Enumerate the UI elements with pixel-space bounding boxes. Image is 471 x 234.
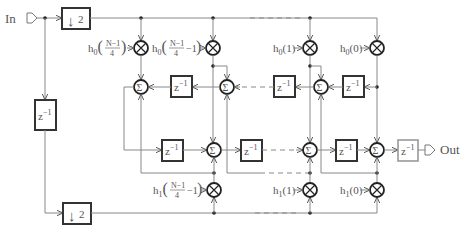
svg-text:2: 2 <box>79 208 85 220</box>
svg-text:4: 4 <box>174 49 178 58</box>
svg-text:4: 4 <box>175 191 179 200</box>
bottom-downsampler-block: ↓ 2 <box>63 203 91 224</box>
bottom-sum-2: Σ <box>303 143 317 157</box>
top-downsampler-block: ↓ 2 <box>62 8 90 29</box>
top-multiplier-4 <box>370 41 384 55</box>
bottom-multiplier-1 <box>207 183 221 197</box>
svg-text:Σ: Σ <box>373 145 379 156</box>
top-multiplier-1 <box>134 41 148 55</box>
down-arrow-icon: ↓ <box>67 13 75 29</box>
input-port-icon <box>27 13 37 23</box>
svg-text:): ) <box>121 38 126 56</box>
top-delay-2: z−1 <box>274 76 295 97</box>
svg-text:Σ: Σ <box>137 82 143 93</box>
svg-text:N−1: N−1 <box>171 181 185 190</box>
top-sum-1: Σ <box>134 80 148 94</box>
bottom-multiplier-2 <box>303 183 317 197</box>
svg-text:Σ: Σ <box>210 145 216 156</box>
svg-text:2: 2 <box>78 13 84 25</box>
svg-text:4: 4 <box>110 49 114 58</box>
bottom-delay-3: z−1 <box>336 140 357 161</box>
input-delay-block: z−1 <box>35 100 56 130</box>
bottom-delay-1: z−1 <box>162 140 183 161</box>
output-port-icon <box>425 145 435 155</box>
output-label: Out <box>440 142 460 157</box>
top-sum-2: Σ <box>220 80 234 94</box>
input-label: In <box>5 11 16 26</box>
svg-text:N−1: N−1 <box>170 39 184 48</box>
bottom-sum-3: Σ <box>370 143 384 157</box>
bottom-sum-1: Σ <box>207 143 221 157</box>
input-port: In <box>5 11 37 26</box>
svg-text:N−1: N−1 <box>106 39 120 48</box>
coef-h0-n14: h0( <box>88 38 103 57</box>
output-delay-block: z−1 <box>398 140 418 161</box>
bottom-delay-2: z−1 <box>241 140 262 161</box>
coef-h0-1: h0(1) <box>273 42 296 57</box>
top-sum-3: Σ <box>314 80 328 94</box>
coef-h0-0: h0(0) <box>340 42 363 57</box>
top-multiplier-3 <box>303 41 317 55</box>
coef-h1-0: h1(0) <box>340 184 363 199</box>
output-port: Out <box>425 142 460 157</box>
top-delay-1: z−1 <box>171 76 192 97</box>
polyphase-filter-diagram: In ↓ 2 z−1 ↓ 2 h0( N−1 4 ) <box>0 0 471 234</box>
coef-h1-1: h1(1) <box>273 184 296 199</box>
svg-text:Σ: Σ <box>306 145 312 156</box>
svg-text:): ) <box>196 38 201 56</box>
top-multiplier-2 <box>206 41 220 55</box>
coef-h0-n14-minus1: h0( <box>152 38 167 57</box>
svg-text:Σ: Σ <box>223 82 229 93</box>
bottom-multiplier-3 <box>370 183 384 197</box>
down-arrow-icon: ↓ <box>68 208 76 224</box>
svg-text:Σ: Σ <box>317 82 323 93</box>
top-delay-3: z−1 <box>343 76 364 97</box>
svg-text:): ) <box>197 180 202 198</box>
coef-h1-n14-minus1: h1( <box>153 180 168 199</box>
